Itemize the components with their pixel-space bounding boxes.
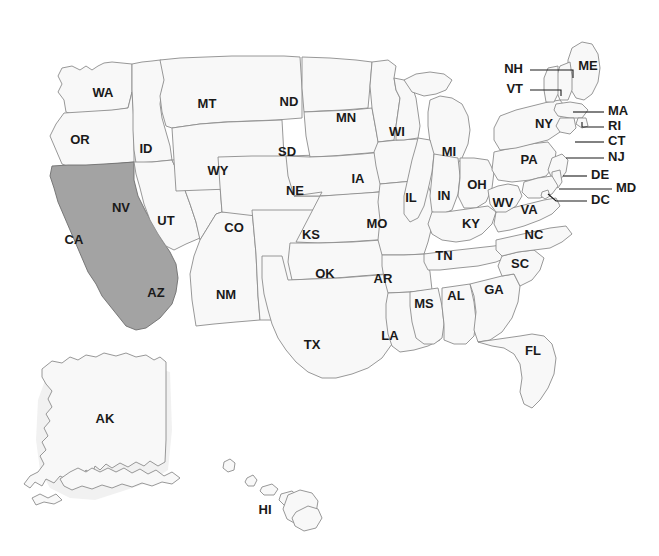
- state-label-CA: CA: [65, 232, 84, 247]
- state-label-MO: MO: [367, 216, 388, 231]
- state-FL[interactable]: [478, 334, 556, 408]
- state-label-ND: ND: [280, 94, 299, 109]
- state-label-ME: ME: [578, 58, 598, 73]
- state-label-VA: VA: [520, 202, 538, 217]
- state-VT[interactable]: [544, 66, 558, 102]
- state-label-OH: OH: [467, 177, 487, 192]
- callout-label-DE: DE: [591, 167, 609, 182]
- state-label-HI: HI: [259, 502, 272, 517]
- state-label-TX: TX: [304, 337, 321, 352]
- callout-label-NH: NH: [504, 61, 523, 76]
- state-label-UT: UT: [157, 213, 174, 228]
- state-label-IA: IA: [352, 171, 366, 186]
- state-label-NE: NE: [286, 183, 304, 198]
- callout-label-MA: MA: [608, 103, 629, 118]
- callout-label-DC: DC: [591, 192, 610, 207]
- state-label-OK: OK: [315, 266, 335, 281]
- state-label-MS: MS: [414, 296, 434, 311]
- callout-label-RI: RI: [608, 118, 621, 133]
- state-label-AZ: AZ: [147, 285, 164, 300]
- state-label-IL: IL: [405, 190, 417, 205]
- state-HI[interactable]: [223, 459, 322, 531]
- callout-label-NJ: NJ: [608, 149, 625, 164]
- callout-label-VT: VT: [506, 81, 523, 96]
- state-label-IN: IN: [438, 188, 451, 203]
- state-MA[interactable]: [554, 102, 588, 118]
- state-label-NM: NM: [216, 287, 236, 302]
- state-label-NC: NC: [525, 227, 544, 242]
- state-label-KS: KS: [302, 227, 320, 242]
- state-label-AR: AR: [374, 271, 393, 286]
- state-label-LA: LA: [381, 328, 399, 343]
- callout-label-CT: CT: [608, 133, 625, 148]
- state-label-OR: OR: [70, 132, 90, 147]
- state-IN[interactable]: [430, 154, 460, 214]
- state-ND[interactable]: [302, 57, 372, 112]
- state-label-PA: PA: [520, 152, 538, 167]
- state-label-MI: MI: [442, 144, 456, 159]
- state-label-SD: SD: [278, 144, 296, 159]
- state-label-CO: CO: [224, 220, 244, 235]
- state-label-GA: GA: [484, 282, 504, 297]
- state-label-NV: NV: [112, 200, 130, 215]
- state-label-AK: AK: [96, 411, 115, 426]
- state-MT[interactable]: [160, 56, 302, 128]
- state-label-MN: MN: [336, 110, 356, 125]
- us-map-svg: WAORCANVIDUTAZMTWYCONMNDSDNEKSOKTXMNIAMO…: [0, 0, 659, 556]
- state-label-SC: SC: [511, 256, 530, 271]
- state-label-TN: TN: [435, 248, 452, 263]
- state-label-AL: AL: [447, 288, 464, 303]
- state-label-KY: KY: [462, 216, 480, 231]
- state-label-NY: NY: [535, 116, 553, 131]
- state-label-WV: WV: [493, 195, 514, 210]
- state-label-WI: WI: [389, 124, 405, 139]
- us-map-container: WAORCANVIDUTAZMTWYCONMNDSDNEKSOKTXMNIAMO…: [0, 0, 659, 556]
- state-label-WY: WY: [208, 163, 229, 178]
- state-label-FL: FL: [525, 343, 541, 358]
- state-label-ID: ID: [140, 141, 153, 156]
- state-label-MT: MT: [198, 96, 217, 111]
- state-label-WA: WA: [93, 85, 115, 100]
- callout-label-MD: MD: [616, 180, 636, 195]
